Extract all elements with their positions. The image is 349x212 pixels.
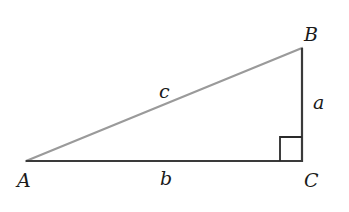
vertex-label-b: B bbox=[303, 23, 318, 45]
vertex-label-a: A bbox=[15, 169, 31, 191]
right-angle-marker bbox=[280, 137, 302, 161]
side-c-hypotenuse bbox=[26, 48, 302, 161]
right-triangle-diagram: A B C c b a bbox=[0, 0, 349, 212]
vertex-label-c: C bbox=[304, 169, 319, 191]
side-label-c: c bbox=[159, 80, 170, 102]
side-label-b: b bbox=[160, 167, 172, 189]
side-label-a: a bbox=[313, 91, 324, 113]
